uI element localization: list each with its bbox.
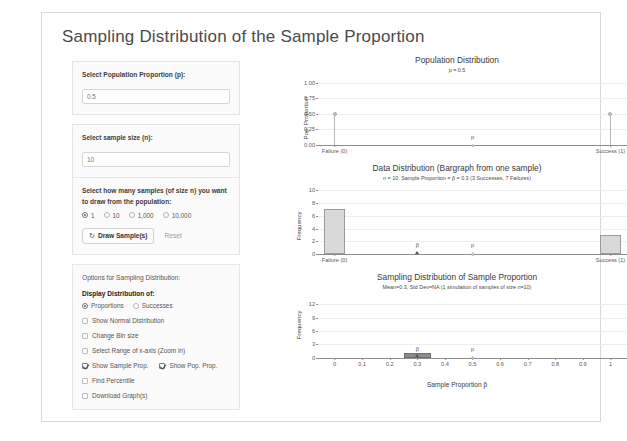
num-samples-panel: Select how many samples (of size n) you … — [72, 178, 240, 254]
chart-data-title: Data Distribution (Bargraph from one sam… — [285, 163, 627, 173]
marker-label: p — [471, 134, 474, 140]
gridline — [318, 304, 627, 305]
proportion-checkbox-row: Show Sample Prop. Show Pop. Prop. — [82, 362, 230, 369]
display-option-successes-label: Successes — [142, 302, 173, 309]
population-proportion-label: Select Population Proportion (p): — [82, 70, 230, 80]
marker-triangle — [415, 251, 419, 254]
radio-icon[interactable] — [163, 212, 169, 218]
marker-dot — [471, 356, 475, 360]
x-tick-label: 0.2 — [386, 361, 394, 367]
marker-label: p — [471, 242, 474, 248]
checkbox-select-range-x-axis[interactable]: Select Range of x-axis (Zoom in) — [82, 347, 230, 354]
y-tick-label: 2 — [312, 238, 315, 244]
x-tick-label: 1 — [609, 361, 612, 367]
radio-icon[interactable] — [104, 212, 110, 218]
num-samples-option-10-label: 10 — [113, 212, 120, 219]
sampling-options-heading: Options for Sampling Distribution: — [82, 273, 230, 283]
checkbox-change-bin-size[interactable]: Change Bin size — [82, 332, 230, 339]
checkbox-icon[interactable] — [82, 348, 88, 354]
chart-data-subtitle: n = 10, Sample Proportion = p̂ = 0.3 (3 … — [285, 175, 627, 181]
y-tick-label: 9 — [312, 315, 315, 321]
checkbox-icon[interactable] — [159, 363, 165, 369]
checkbox-find-percentile-label: Find Percentile — [92, 377, 135, 384]
x-tick-label: 0.3 — [413, 361, 421, 367]
checkbox-icon[interactable] — [82, 333, 88, 339]
x-tick-label: Success (1) — [596, 257, 626, 263]
x-tick-label: Success (1) — [596, 148, 626, 154]
draw-samples-button[interactable]: ↻ Draw Sample(s) — [82, 228, 154, 244]
checkbox-find-percentile[interactable]: Find Percentile — [82, 377, 230, 384]
checkbox-change-bin-size-label: Change Bin size — [92, 332, 139, 339]
chart-population-ylabel: Pop. Proportion — [302, 96, 309, 139]
chart-population-subtitle: p = 0.5 — [285, 67, 627, 73]
chart-sampling-subtitle: Mean=0.3, Std Dev=NA (1 simulation of sa… — [285, 284, 627, 290]
y-tick-label: 6 — [312, 328, 315, 334]
chart-sampling-xlabel: Sample Proportion p̂ — [285, 381, 627, 388]
checkbox-show-normal-distribution[interactable]: Show Normal Distribution — [82, 317, 230, 324]
y-tick-label: 0.75 — [304, 95, 315, 101]
refresh-icon: ↻ — [89, 232, 95, 240]
num-samples-radio-group: 1 10 1,000 10,000 — [82, 212, 230, 219]
marker-label: p̂ — [416, 242, 419, 248]
checkbox-show-sample-prop-label: Show Sample Prop. — [92, 362, 148, 369]
gridline — [318, 114, 627, 115]
x-tick-label: 0 — [333, 361, 336, 367]
x-tick-label: 0.5 — [469, 361, 477, 367]
gridline — [318, 98, 627, 99]
charts-column: Population Distribution p = 0.5 Pop. Pro… — [285, 55, 627, 388]
x-tick-label: 0.1 — [358, 361, 366, 367]
radio-icon[interactable] — [82, 212, 88, 218]
population-proportion-panel: Select Population Proportion (p): — [72, 61, 240, 115]
gridline — [318, 190, 627, 191]
data-point — [333, 112, 337, 116]
y-tick-label: 10 — [309, 187, 315, 193]
bar — [600, 235, 621, 254]
y-tick-label: 3 — [312, 341, 315, 347]
radio-icon[interactable] — [82, 303, 88, 309]
checkbox-show-sample-prop[interactable]: Show Sample Prop. — [82, 362, 148, 369]
checkbox-show-normal-distribution-label: Show Normal Distribution — [92, 317, 164, 324]
marker-dot — [471, 144, 475, 148]
checkbox-icon[interactable] — [82, 363, 88, 369]
x-tick-label: Failure (0) — [322, 257, 348, 263]
x-tick-label: 0.4 — [441, 361, 449, 367]
y-tick-label: 4 — [312, 226, 315, 232]
checkbox-show-pop-prop[interactable]: Show Pop. Prop. — [159, 362, 217, 369]
radio-icon[interactable] — [129, 212, 135, 218]
y-tick-label: 0 — [312, 355, 315, 361]
draw-samples-label: Draw Sample(s) — [98, 232, 147, 239]
display-option-proportions[interactable]: Proportions — [82, 302, 124, 309]
chart-population-plot-area: Pop. Proportion 0.000.250.500.751.00Fail… — [285, 77, 627, 159]
chart-data-ylabel: Frequency — [295, 212, 302, 241]
gridline — [318, 203, 627, 204]
population-proportion-input[interactable] — [82, 89, 230, 104]
num-samples-option-10[interactable]: 10 — [104, 212, 120, 219]
display-option-proportions-label: Proportions — [91, 302, 124, 309]
checkbox-download-graphs[interactable]: Download Graph(s) — [82, 392, 230, 399]
display-distribution-radio-group: Proportions Successes — [82, 302, 230, 309]
display-distribution-heading: Display Distribution of: — [82, 290, 230, 297]
checkbox-icon[interactable] — [82, 393, 88, 399]
checkbox-icon[interactable] — [82, 378, 88, 384]
y-tick-label: 12 — [309, 301, 315, 307]
radio-icon[interactable] — [133, 303, 139, 309]
stem — [610, 114, 611, 145]
display-option-successes[interactable]: Successes — [133, 302, 173, 309]
x-tick-label: Failure (0) — [322, 148, 348, 154]
num-samples-option-1000[interactable]: 1,000 — [129, 212, 154, 219]
num-samples-option-1[interactable]: 1 — [82, 212, 95, 219]
sample-size-input[interactable] — [82, 152, 230, 167]
gridline — [318, 229, 627, 230]
marker-dot — [471, 252, 475, 256]
gridline — [318, 318, 627, 319]
y-tick-label: 0.00 — [304, 142, 315, 148]
y-tick-label: 0.50 — [304, 111, 315, 117]
y-tick-label: 1.00 — [304, 80, 315, 86]
num-samples-option-1000-label: 1,000 — [138, 212, 154, 219]
gridline — [318, 129, 627, 130]
num-samples-option-10000[interactable]: 10,000 — [163, 212, 192, 219]
checkbox-download-graphs-label: Download Graph(s) — [92, 392, 147, 399]
reset-button[interactable]: Reset — [162, 229, 183, 242]
checkbox-icon[interactable] — [82, 318, 88, 324]
chart-data-plot-area: Frequency 0246810Failure (0)Success (1)p… — [285, 184, 627, 268]
